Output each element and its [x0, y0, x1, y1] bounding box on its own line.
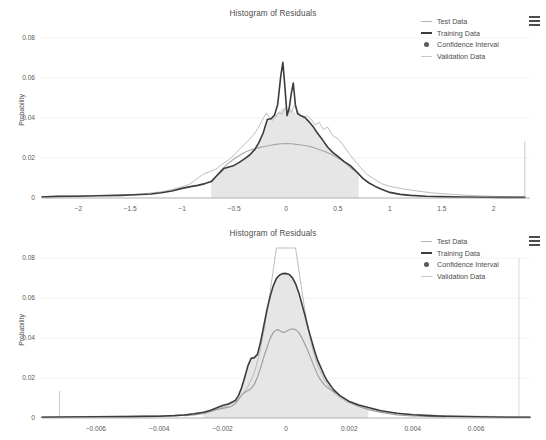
x-tick-label: 0.5	[333, 205, 342, 212]
x-tick-label: 1	[388, 205, 392, 212]
menu-bar-3	[529, 24, 540, 26]
confidence-interval-band	[204, 273, 369, 418]
panel-bottom-y-axis-label: Probability	[18, 314, 25, 346]
x-tick-label: −0.004	[149, 425, 170, 432]
panel-bottom-legend: Test Data Training Data Confidence Inter…	[420, 236, 542, 282]
legend-item-confidence-interval[interactable]: Confidence Interval	[420, 39, 542, 51]
hamburger-menu-icon[interactable]	[529, 16, 540, 26]
legend-item-validation-data[interactable]: Validation Data	[420, 271, 542, 283]
legend-label-test: Test Data	[437, 17, 467, 26]
legend-line-icon-validation	[420, 276, 433, 277]
x-tick-label: 0.002	[341, 425, 358, 432]
legend-item-test-data[interactable]: Test Data	[420, 236, 542, 248]
y-tick-label: 0.06	[22, 74, 35, 81]
x-tick-label: −0.002	[212, 425, 233, 432]
menu-bar-2	[529, 240, 540, 242]
legend-item-confidence-interval[interactable]: Confidence Interval	[420, 259, 542, 271]
legend-label-validation: Validation Data	[437, 52, 485, 61]
panel-top-y-axis-label: Probability	[18, 94, 25, 126]
x-tick-label: −0.5	[228, 205, 241, 212]
x-tick-label: 2	[492, 205, 496, 212]
legend-item-test-data[interactable]: Test Data	[420, 16, 542, 28]
legend-dot-icon-confidence	[420, 42, 433, 47]
x-tick-label: 1.5	[437, 205, 446, 212]
menu-bar-1	[529, 236, 540, 238]
x-tick-label: 0	[284, 205, 288, 212]
menu-bar-3	[529, 244, 540, 246]
legend-dot-icon-confidence	[420, 262, 433, 267]
legend-label-training: Training Data	[437, 249, 480, 258]
y-tick-label: 0.02	[22, 154, 35, 161]
x-tick-label: −1	[178, 205, 186, 212]
y-tick-label: 0.08	[22, 254, 35, 261]
chart-page: 00.020.040.060.08−2−1.5−1−0.500.511.52 H…	[0, 0, 546, 440]
x-tick-label: 0.006	[468, 425, 485, 432]
legend-item-validation-data[interactable]: Validation Data	[420, 51, 542, 63]
x-tick-label: −2	[75, 205, 83, 212]
x-tick-label: 0	[284, 425, 288, 432]
menu-bar-1	[529, 16, 540, 18]
legend-line-icon-training	[420, 32, 433, 34]
x-tick-label: −1.5	[124, 205, 137, 212]
legend-item-training-data[interactable]: Training Data	[420, 248, 542, 260]
legend-label-validation: Validation Data	[437, 272, 485, 281]
legend-label-training: Training Data	[437, 29, 480, 38]
legend-line-icon-test	[420, 21, 433, 22]
confidence-interval-band	[211, 108, 358, 198]
legend-line-icon-test	[420, 241, 433, 242]
legend-label-confidence: Confidence Interval	[437, 40, 499, 49]
legend-label-test: Test Data	[437, 237, 467, 246]
x-tick-label: 0.004	[404, 425, 421, 432]
x-tick-label: −0.006	[86, 425, 107, 432]
legend-line-icon-training	[420, 252, 433, 254]
legend-item-training-data[interactable]: Training Data	[420, 28, 542, 40]
y-tick-label: 0	[31, 194, 35, 201]
y-tick-label: 0.08	[22, 34, 35, 41]
panel-bottom: 00.020.040.060.08−0.006−0.004−0.00200.00…	[0, 220, 546, 440]
legend-line-icon-validation	[420, 56, 433, 57]
y-tick-label: 0.06	[22, 294, 35, 301]
y-tick-label: 0.02	[22, 374, 35, 381]
panel-top-legend: Test Data Training Data Confidence Inter…	[420, 16, 542, 62]
panel-top: 00.020.040.060.08−2−1.5−1−0.500.511.52 H…	[0, 0, 546, 220]
menu-bar-2	[529, 20, 540, 22]
legend-label-confidence: Confidence Interval	[437, 260, 499, 269]
y-tick-label: 0	[31, 414, 35, 421]
hamburger-menu-icon[interactable]	[529, 236, 540, 246]
